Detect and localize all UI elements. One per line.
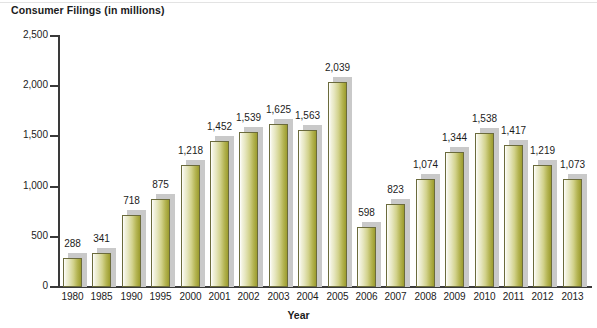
x-axis-tick-label: 2007	[379, 291, 413, 302]
bar-value-label: 1,452	[200, 122, 240, 132]
bar-1990	[122, 215, 141, 287]
x-axis-tick-label: 2002	[232, 291, 266, 302]
bar-2004	[298, 130, 317, 287]
bar-value-label: 1,344	[435, 133, 475, 143]
bar-item	[475, 127, 500, 287]
bar-item	[239, 126, 264, 287]
bar-value-label: 875	[141, 180, 181, 190]
bar-item	[416, 173, 441, 287]
bar-2009	[445, 152, 464, 287]
x-axis-tick-label: 2004	[291, 291, 325, 302]
bar-item	[386, 198, 411, 287]
bar-value-label: 2,039	[318, 63, 358, 73]
bar-value-label: 1,563	[288, 111, 328, 121]
bar-value-label: 1,218	[171, 146, 211, 156]
bar-value-label: 823	[376, 185, 416, 195]
bar-item	[269, 118, 294, 287]
bar-item	[122, 209, 147, 287]
bar-value-label: 718	[112, 196, 152, 206]
bar-item	[328, 76, 353, 287]
bar-2012	[533, 165, 552, 287]
bar-value-label: 1,219	[523, 146, 563, 156]
bar-item	[63, 252, 88, 287]
bar-value-label: 1,074	[406, 160, 446, 170]
bar-2007	[386, 204, 405, 287]
bar-value-label: 1,538	[465, 114, 505, 124]
bar-item	[210, 135, 235, 287]
bar-item	[504, 139, 529, 287]
bar-2002	[239, 132, 258, 287]
bar-item	[92, 247, 117, 287]
bar-2008	[416, 179, 435, 287]
bar-1995	[151, 199, 170, 287]
x-axis-tick-label: 2009	[438, 291, 472, 302]
bar-value-label: 1,073	[553, 160, 593, 170]
bar-2011	[504, 145, 523, 287]
bar-item	[563, 173, 588, 287]
bar-chart: Consumer Filings (in millions) 05001,000…	[0, 0, 597, 328]
bar-2003	[269, 124, 288, 287]
bar-1985	[92, 253, 111, 287]
x-axis-tick-label: 1995	[144, 291, 178, 302]
x-axis-title: Year	[0, 309, 597, 321]
bar-item	[357, 221, 382, 287]
bar-item	[445, 146, 470, 287]
bar-value-label: 1,417	[494, 126, 534, 136]
bar-series: 2883417188751,2181,4521,5391,6251,5632,0…	[0, 0, 597, 328]
x-axis-tick-label: 2013	[556, 291, 590, 302]
x-axis-tick-label: 2012	[526, 291, 560, 302]
bar-2013	[563, 179, 582, 287]
bar-2000	[181, 165, 200, 287]
bar-2005	[328, 82, 347, 287]
bar-item	[533, 159, 558, 287]
bar-item	[181, 159, 206, 287]
bar-item	[151, 193, 176, 287]
bar-value-label: 341	[82, 234, 122, 244]
bar-item	[298, 124, 323, 287]
bar-1980	[63, 258, 82, 287]
bar-2006	[357, 227, 376, 287]
bar-value-label: 598	[347, 208, 387, 218]
x-axis-tick-label: 1985	[85, 291, 119, 302]
bar-2001	[210, 141, 229, 287]
bar-2010	[475, 133, 494, 287]
